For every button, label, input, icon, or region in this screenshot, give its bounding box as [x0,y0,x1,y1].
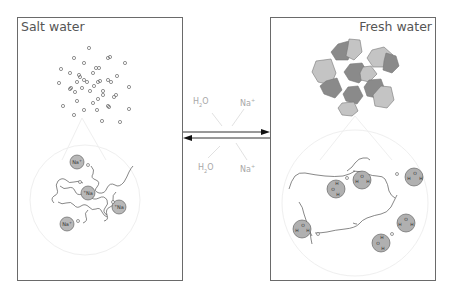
arrow-right-icon [261,129,270,135]
water-label-top: H2O [193,97,209,108]
svg-text:H: H [380,235,383,240]
svg-text:O: O [360,174,364,179]
flux-lines [208,109,247,160]
svg-text:O: O [413,171,417,176]
sodium-label-bottom: Na+ [240,163,255,174]
arrow-left-icon [183,135,192,141]
svg-text:O: O [404,217,408,222]
svg-text:H: H [306,228,309,233]
svg-text:O: O [331,187,335,192]
water-label-bottom: H2O [198,163,214,174]
sodium-label-top: Na+ [240,97,255,108]
svg-text:H: H [335,181,338,186]
svg-text:O: O [301,223,305,228]
svg-text:H: H [381,246,384,251]
svg-text:H: H [410,222,413,227]
svg-text:H: H [419,176,422,181]
svg-text:O: O [376,241,380,246]
diagram-graphics: Na+ +Na +Na Na+ [0,0,452,297]
svg-text:H: H [355,179,358,184]
salt-particle-cloud [57,46,130,123]
svg-text:H: H [336,192,339,197]
svg-text:H: H [407,176,410,181]
exchange-arrows [183,129,270,141]
dry-polymer-particles [312,39,399,116]
svg-text:H: H [398,222,401,227]
right-zoom-indicator [282,116,428,276]
svg-text:H: H [366,179,369,184]
svg-text:H: H [295,228,298,233]
sodium-ions [60,155,126,231]
